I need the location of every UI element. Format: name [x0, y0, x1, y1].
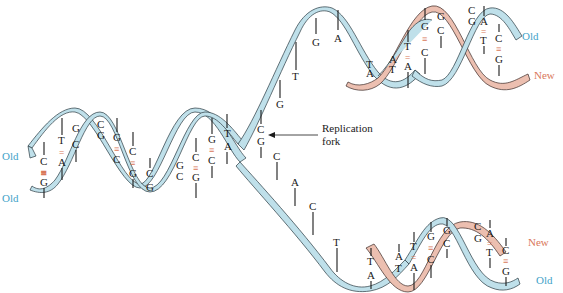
- svg-text:C: C: [502, 244, 509, 256]
- svg-text:A: A: [395, 250, 403, 262]
- svg-text:G: G: [421, 20, 429, 32]
- svg-text:≡: ≡: [428, 243, 433, 253]
- base: C: [273, 150, 280, 162]
- svg-text:A: A: [410, 261, 418, 273]
- base: G: [192, 171, 200, 183]
- base: C: [129, 145, 136, 157]
- label-old-bottom-left: Old: [2, 192, 19, 204]
- parent-strand-end: [28, 146, 36, 158]
- arrow-left-icon: [268, 132, 275, 138]
- svg-text:T: T: [404, 40, 411, 52]
- svg-text:≡: ≡: [422, 34, 427, 44]
- base: G: [113, 131, 121, 143]
- base: T: [224, 127, 231, 139]
- svg-text:C: C: [421, 46, 428, 58]
- base: C: [257, 123, 264, 135]
- base: C: [176, 170, 183, 182]
- svg-text:T: T: [389, 63, 396, 75]
- svg-text:G: G: [443, 224, 451, 236]
- fork-label-line2: fork: [322, 135, 341, 147]
- svg-text:C: C: [427, 253, 434, 265]
- base: G: [146, 181, 154, 193]
- base: A: [58, 156, 66, 168]
- base: T: [292, 70, 299, 82]
- svg-text:C: C: [443, 237, 450, 249]
- base: C: [192, 151, 199, 163]
- label-old-top-left: Old: [2, 150, 19, 162]
- svg-text:A: A: [366, 67, 374, 79]
- svg-text:T: T: [480, 34, 487, 46]
- diagram-canvas: C ≡ G T = A G C C G G ≡ C C ≡ G C G G C …: [0, 0, 563, 293]
- svg-text:T: T: [486, 246, 493, 258]
- svg-text:A: A: [404, 60, 412, 72]
- base: G: [208, 133, 216, 145]
- base: G: [97, 129, 105, 141]
- fork-label-line1: Replication: [322, 122, 373, 134]
- base: A: [291, 176, 299, 188]
- svg-text:G: G: [427, 230, 435, 242]
- svg-text:C: C: [495, 32, 502, 44]
- svg-text:T: T: [395, 262, 402, 274]
- base: C: [40, 155, 47, 167]
- svg-text:T: T: [367, 255, 374, 267]
- svg-text:G: G: [474, 232, 482, 244]
- base: T: [58, 134, 65, 146]
- base: G: [312, 36, 320, 48]
- base: T: [333, 236, 340, 248]
- base: G: [257, 135, 265, 147]
- label-old-upper-right: Old: [522, 30, 539, 42]
- base: G: [276, 98, 284, 110]
- base: C: [113, 153, 120, 165]
- base: G: [40, 176, 48, 188]
- svg-text:A: A: [367, 269, 375, 281]
- label-old-lower-right: Old: [536, 274, 553, 286]
- svg-text:G: G: [437, 10, 445, 22]
- dna-replication-diagram: C ≡ G T = A G C C G G ≡ C C ≡ G C G G C …: [0, 0, 563, 293]
- label-new-upper-right: New: [534, 69, 555, 81]
- replication-fork-annotation: Replication fork: [268, 122, 373, 147]
- base: C: [146, 167, 153, 179]
- svg-text:T: T: [410, 240, 417, 252]
- svg-text:G: G: [468, 15, 476, 27]
- svg-text:G: G: [495, 53, 503, 65]
- svg-text:C: C: [474, 220, 481, 232]
- base: G: [129, 167, 137, 179]
- base: C: [309, 200, 316, 212]
- base: C: [208, 154, 215, 166]
- svg-text:C: C: [437, 24, 444, 36]
- base: A: [224, 140, 232, 152]
- base: A: [334, 32, 342, 44]
- base: C: [72, 138, 79, 150]
- label-new-lower-right: New: [528, 236, 549, 248]
- base: G: [72, 122, 80, 134]
- svg-text:G: G: [502, 265, 510, 277]
